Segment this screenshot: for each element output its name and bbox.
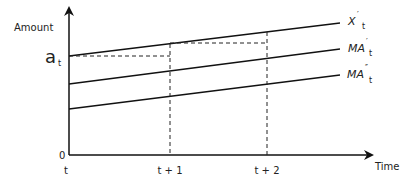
- tick-t-plus-1: t + 1: [157, 165, 182, 176]
- svg-text:t: t: [369, 49, 372, 58]
- svg-text:t: t: [369, 76, 372, 85]
- svg-text:MA: MA: [348, 42, 365, 55]
- moving-average-diagram: Amount Time 0 a t t t + 1 t + 2 X ′ t MA…: [0, 0, 408, 183]
- level-label-sub: t: [58, 59, 61, 68]
- series-line-x-prime: [69, 23, 340, 56]
- series-label-ma-double-prime: MA ″ t: [347, 64, 372, 85]
- y-axis-label: Amount: [14, 22, 53, 33]
- level-label-a: a: [45, 46, 56, 67]
- tick-t-plus-2: t + 2: [254, 165, 279, 176]
- series-line-ma-prime: [69, 49, 340, 84]
- svg-text:″: ″: [365, 64, 368, 73]
- origin-label: 0: [59, 150, 65, 161]
- series-line-ma-double-prime: [69, 75, 340, 109]
- svg-text:′: ′: [357, 11, 359, 20]
- svg-text:X: X: [347, 15, 356, 28]
- series-label-ma-prime: MA ′ t: [348, 38, 372, 58]
- svg-text:t: t: [362, 22, 365, 31]
- svg-text:MA: MA: [347, 68, 364, 81]
- tick-t: t: [64, 165, 68, 176]
- svg-text:′: ′: [366, 38, 368, 47]
- x-axis-label: Time: [374, 161, 399, 172]
- series-label-x-prime: X ′ t: [347, 11, 365, 31]
